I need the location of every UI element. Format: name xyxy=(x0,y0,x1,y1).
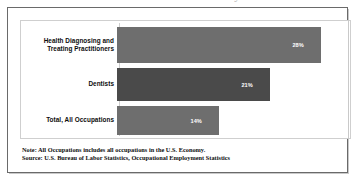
bar-track: 14% xyxy=(117,106,350,135)
bar-dentists: 21% xyxy=(117,68,270,101)
cropped-title-sliver: Percent of Workers Paid Hourly Rates xyxy=(0,0,357,6)
bar-row: Total, All Occupations 14% xyxy=(21,106,350,135)
bar-track: 28% xyxy=(117,27,350,63)
bar-value-label: 14% xyxy=(190,118,219,124)
category-label-dentists: Dentists xyxy=(21,80,117,88)
footnotes: Note: All Occupations includes all occup… xyxy=(22,146,322,163)
bar-row: Dentists 21% xyxy=(21,68,350,101)
category-label-total-all-occupations: Total, All Occupations xyxy=(21,116,117,124)
bar-total-all-occupations: 14% xyxy=(117,106,219,135)
note-text: Note: All Occupations includes all occup… xyxy=(22,146,322,154)
bar-row: Health Diagnosing and Treating Practitio… xyxy=(21,27,350,63)
bar-health-practitioners: 28% xyxy=(117,27,321,63)
bar-track: 21% xyxy=(117,68,350,101)
bar-chart: Health Diagnosing and Treating Practitio… xyxy=(21,21,350,138)
category-label-health-practitioners: Health Diagnosing and Treating Practitio… xyxy=(21,37,117,53)
bar-value-label: 28% xyxy=(292,42,321,48)
chart-frame: Health Diagnosing and Treating Practitio… xyxy=(7,7,348,173)
plot-area: Health Diagnosing and Treating Practitio… xyxy=(20,20,351,139)
bar-value-label: 21% xyxy=(241,82,270,88)
source-text: Source: U.S. Bureau of Labor Statistics,… xyxy=(22,154,322,162)
